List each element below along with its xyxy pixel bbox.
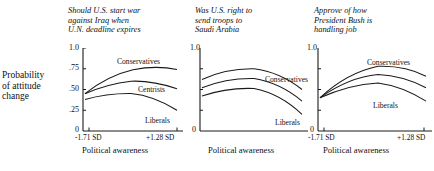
panel-2-label-conservatives: Conservatives: [265, 75, 308, 84]
panel-1-label-conservatives: Conservatives: [117, 57, 160, 66]
panel-1-label-liberals: Liberals: [145, 116, 170, 125]
panel-2-ytick-0: 0: [184, 125, 196, 134]
panel-1-xtick-right: +1.28 SD: [146, 133, 174, 142]
panel-3-xtick-left: -1.71 SD: [308, 133, 335, 142]
panel-1-ytick-1.0: 1.0: [59, 43, 79, 52]
panel-1-xtick-left: -1.71 SD: [75, 133, 102, 142]
panel-iraq-war: Should U.S. start war against Iraq when …: [60, 0, 185, 171]
panel-3-label-liberals: Liberals: [373, 101, 398, 110]
figure-attitude-change: Probability of attitude change Should U.…: [0, 0, 434, 171]
y-axis-title: Probability of attitude change: [2, 70, 64, 102]
panel-1-title: Should U.S. start war against Iraq when …: [68, 6, 186, 35]
y-axis-title-line-2: of attitude: [2, 81, 64, 92]
panel-1-ytick-0.25: .25: [62, 105, 79, 114]
panel-1-x-axis-title: Political awareness: [82, 145, 148, 155]
y-axis-title-line-3: change: [2, 91, 64, 102]
panel-saudi-troops: Was U.S. right to send troops to Saudi A…: [190, 0, 310, 171]
panel-bush-approval: Approve of how President Bush is handlin…: [305, 0, 434, 171]
panel-3-ytick-1.0: 1.0: [297, 43, 317, 52]
panel-3-label-conservatives: Conservatives: [367, 58, 410, 67]
y-axis-title-line-1: Probability: [2, 70, 64, 81]
panel-2-title: Was U.S. right to send troops to Saudi A…: [195, 6, 310, 35]
panel-2-label-liberals: Liberals: [275, 118, 300, 127]
panel-1-label-centrists: Centrists: [138, 85, 165, 94]
panel-3-xtick-right: +1.28 SD: [397, 133, 425, 142]
panel-3-x-axis-title: Political awareness: [323, 145, 389, 155]
panel-2-ytick-1.0: 1.0: [180, 43, 200, 52]
panel-1-ytick-0.75: .75: [62, 63, 79, 72]
panel-2-x-axis-title: Political awareness: [208, 145, 274, 155]
panel-1-ytick-0.50: .50: [62, 84, 79, 93]
panel-3-title: Approve of how President Bush is handlin…: [314, 6, 432, 35]
